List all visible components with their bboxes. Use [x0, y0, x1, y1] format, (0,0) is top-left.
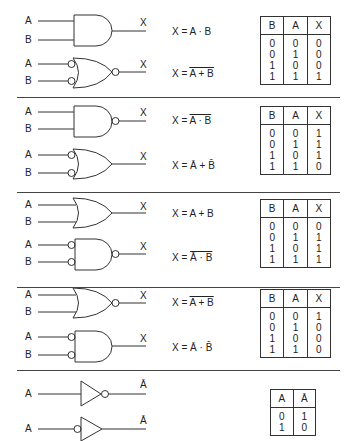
output-label-abar: Ā: [140, 416, 147, 426]
input-label-a: A: [25, 200, 32, 210]
section-divider: [17, 287, 340, 288]
equation-or: X = A + B: [172, 208, 214, 220]
output-label-x: X: [140, 18, 147, 28]
inverted-input-or-gate: [38, 149, 146, 179]
input-label-a: A: [25, 424, 32, 434]
input-label-a: A: [25, 150, 32, 160]
inverted-input-nand-gate: [38, 239, 146, 270]
equation-and-demorgan: X = Ā · B̄: [172, 342, 212, 354]
inverted-input-or-nor-gate: [38, 58, 146, 88]
input-label-a: A: [25, 240, 32, 250]
input-label-a: A: [25, 107, 32, 117]
output-label-x: X: [140, 242, 147, 252]
input-label-a: A: [25, 389, 32, 399]
truth-table-or: BAX 000 011 101 111: [260, 199, 331, 268]
inverted-input-and-gate: [38, 331, 146, 362]
input-label-b: B: [25, 124, 32, 134]
nor-gate: [38, 288, 146, 318]
equation-nor: X = A + B: [172, 297, 214, 309]
truth-table-not: AĀ 01 10: [270, 389, 316, 436]
input-label-a: A: [25, 59, 32, 69]
input-label-b: B: [25, 217, 32, 227]
equation-nand: X = A · B: [172, 115, 211, 127]
equation-nor-demorgan: X = A + B: [172, 68, 214, 80]
output-label-x: X: [140, 108, 147, 118]
not-gate-input-bubble: [38, 417, 146, 441]
output-label-abar: Ā: [140, 380, 147, 390]
not-gate-output-bubble: [38, 381, 146, 406]
truth-table-and: BAX 000 010 100 111: [260, 16, 331, 85]
nand-gate: [38, 106, 146, 137]
section-divider: [17, 192, 340, 193]
input-label-a: A: [25, 332, 32, 342]
output-label-x: X: [140, 334, 147, 344]
input-label-b: B: [25, 350, 32, 360]
output-label-x: X: [140, 152, 147, 162]
equation-and: X = A · B: [172, 26, 211, 38]
input-label-a: A: [25, 290, 32, 300]
equation-or-demorgan: X = Ā · B̄: [172, 252, 212, 264]
and-gate: [38, 15, 146, 46]
input-label-b: B: [25, 35, 32, 45]
or-gate: [38, 198, 146, 228]
output-label-x: X: [140, 202, 147, 212]
input-label-a: A: [25, 16, 32, 26]
input-label-b: B: [25, 307, 32, 317]
input-label-b: B: [25, 76, 32, 86]
input-label-b: B: [25, 257, 32, 267]
section-divider: [17, 370, 340, 371]
output-label-x: X: [140, 291, 147, 301]
truth-table-nor: BAX 001 010 100 110: [260, 289, 331, 358]
input-label-b: B: [25, 168, 32, 178]
equation-nand-demorgan: X = Ā + B̄: [172, 160, 215, 172]
section-divider: [17, 97, 340, 98]
truth-table-nand: BAX 001 011 101 110: [260, 106, 331, 175]
output-label-x: X: [140, 60, 147, 70]
